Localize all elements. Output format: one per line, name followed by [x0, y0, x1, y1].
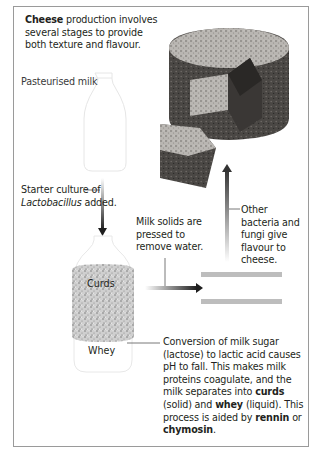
starter-culture-label: Starter culture of Lactobacillus added.: [21, 184, 131, 209]
intro-text: Cheese production involves several stage…: [25, 14, 165, 52]
conv-t2: (solid) and: [163, 399, 215, 410]
press-plates-icon: [201, 272, 282, 304]
intro-bold: Cheese: [25, 14, 63, 25]
whey-label: Whey: [88, 345, 115, 357]
arrow-up-icon: [222, 164, 232, 262]
cheese-wheel-image: [160, 28, 289, 188]
conv-chymosin: chymosin: [163, 424, 213, 435]
conv-rennin: rennin: [255, 412, 289, 423]
conv-t4: or: [289, 412, 301, 423]
milk-solids-label: Milk solids are pressed to remove water.: [136, 216, 208, 254]
conv-curds: curds: [255, 386, 284, 397]
conversion-text: Conversion of milk sugar (lactose) to la…: [163, 336, 309, 437]
arrow-right-icon: [145, 283, 203, 293]
pasteurised-milk-label: Pasteurised milk: [21, 76, 101, 89]
conv-whey: whey: [215, 399, 243, 410]
curds-label: Curds: [87, 278, 115, 290]
other-bacteria-label: Other bacteria and fungi give flavour to…: [241, 204, 307, 267]
conv-t5: .: [213, 424, 216, 435]
lactobacillus-italic: Lactobacillus: [21, 197, 82, 208]
starter-pre: Starter culture of: [21, 184, 100, 195]
starter-post: added.: [82, 197, 117, 208]
